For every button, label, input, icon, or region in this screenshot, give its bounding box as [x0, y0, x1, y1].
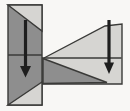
figure-canvas	[0, 0, 130, 111]
figure-wrap	[0, 0, 130, 111]
